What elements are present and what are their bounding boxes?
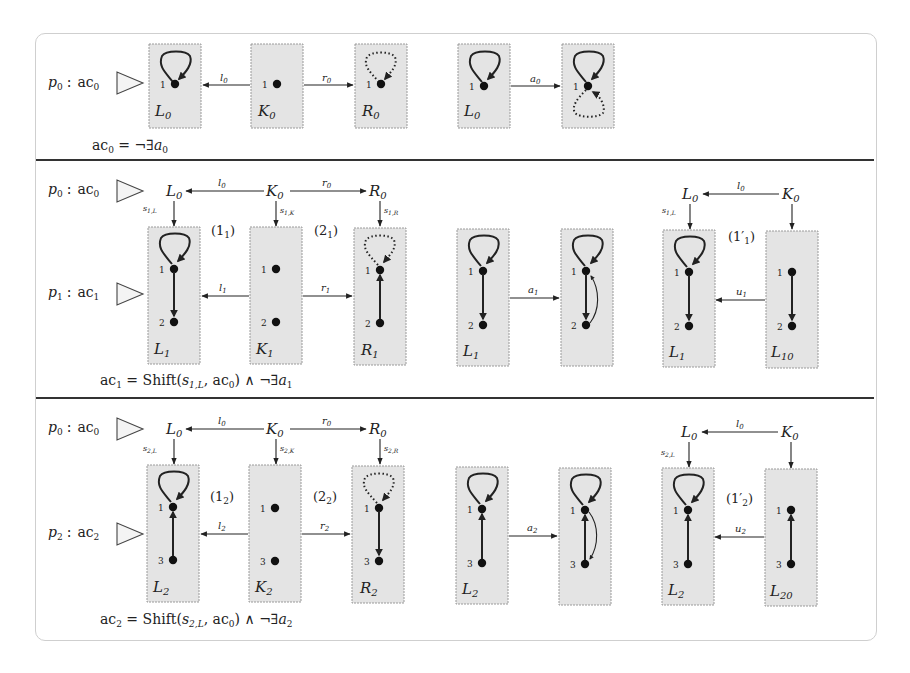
svg-text:s2,K: s2,K	[280, 444, 295, 454]
object-K0: K0	[265, 182, 284, 201]
svg-text:s1,R: s1,R	[384, 206, 399, 216]
svg-text:1: 1	[158, 503, 164, 513]
svg-text:3: 3	[260, 557, 266, 567]
object-R0: R0	[368, 182, 387, 201]
graph-K0: 1 K0	[251, 44, 303, 128]
graph-a1-target: 1 2	[561, 229, 613, 366]
square-2: (22)	[313, 489, 337, 506]
svg-text:1: 1	[673, 506, 679, 516]
svg-text:2: 2	[468, 321, 474, 331]
svg-text:1: 1	[571, 267, 577, 277]
svg-text:1: 1	[365, 266, 371, 276]
svg-text:3: 3	[673, 560, 679, 570]
svg-text:s1,K: s1,K	[280, 206, 295, 216]
triangle-icon	[117, 180, 143, 202]
svg-text:1: 1	[261, 265, 267, 275]
svg-text:s2,R: s2,R	[384, 444, 399, 454]
svg-text:1: 1	[366, 80, 372, 90]
diagram-canvas: p0:ac0 1 L0 1 K0 1 R0 l0 r0	[0, 0, 910, 673]
graph-R0: 1 R0	[355, 44, 407, 128]
graph-L2: 1 3 L2	[147, 465, 199, 602]
svg-text:2: 2	[777, 322, 783, 332]
graph-a2-target: 1 3	[559, 468, 611, 605]
svg-text:2: 2	[159, 318, 165, 328]
svg-text:s2,L: s2,L	[143, 444, 157, 454]
graph-L10: 1 2 L10	[766, 231, 818, 368]
morphism-label: r0	[322, 72, 332, 85]
graph-K2: 1 3 K2	[249, 465, 301, 602]
svg-text:1: 1	[776, 506, 782, 516]
svg-text:K0: K0	[265, 420, 284, 439]
row-2: p0:ac0 L0 K0 R0 l0 r0 s2,L s2,K s2,R (12…	[48, 415, 817, 629]
svg-text:1: 1	[777, 268, 783, 278]
graph-L1: 1 2 L1	[148, 227, 200, 364]
svg-text:s1,L: s1,L	[143, 204, 157, 214]
svg-text:1: 1	[674, 268, 680, 278]
base-rule-name: p0:ac0	[48, 419, 100, 437]
rule-name: p0:ac0	[48, 74, 100, 92]
svg-text:2: 2	[571, 321, 577, 331]
svg-text:K0: K0	[781, 185, 800, 204]
triangle-icon	[117, 72, 143, 94]
triangle-icon	[117, 523, 143, 545]
svg-text:2: 2	[261, 318, 267, 328]
svg-text:1: 1	[364, 504, 370, 514]
graph-L0-condition: 1 L0	[458, 44, 510, 128]
object-L0: L0	[165, 182, 183, 201]
condition-formula: ac1 = Shift(s1,L, ac0) ∧ ¬∃a1	[100, 372, 293, 390]
square-1-prime: (1′2)	[726, 491, 753, 508]
square-2: (21)	[314, 223, 338, 240]
svg-text:3: 3	[158, 556, 164, 566]
morphism-label: a0	[530, 73, 541, 86]
svg-text:l1: l1	[219, 282, 227, 295]
svg-text:1: 1	[262, 80, 268, 90]
svg-text:l0: l0	[218, 415, 226, 428]
svg-text:u2: u2	[735, 523, 746, 536]
svg-text:r2: r2	[320, 520, 330, 533]
svg-text:3: 3	[570, 560, 576, 570]
svg-text:r0: r0	[322, 415, 332, 428]
svg-text:1: 1	[160, 80, 166, 90]
svg-text:1: 1	[570, 506, 576, 516]
condition-formula: ac2 = Shift(s2,L, ac0) ∧ ¬∃a2	[100, 611, 293, 629]
svg-text:L0: L0	[681, 185, 699, 204]
svg-text:a2: a2	[527, 522, 538, 535]
graph-L1-condition: 1 2 L1	[457, 229, 509, 366]
svg-text:R0: R0	[368, 420, 387, 439]
graph-L1-pullback: 1 2 L1	[663, 230, 715, 367]
square-1-prime: (1′1)	[728, 229, 755, 246]
svg-text:3: 3	[776, 560, 782, 570]
condition-formula: ac0 = ¬∃a0	[92, 137, 168, 155]
graph-L2-pullback: 1 3 L2	[662, 468, 714, 605]
svg-text:L0: L0	[680, 423, 698, 442]
triangle-icon	[117, 418, 143, 440]
svg-text:1: 1	[573, 82, 579, 92]
triangle-icon	[117, 283, 143, 305]
graph-R2: 1 3 R2	[352, 466, 404, 603]
graph-L0: 1 L0	[149, 44, 201, 128]
svg-text:r1: r1	[321, 282, 330, 295]
square-1: (12)	[210, 489, 234, 506]
rule-name: p2:ac2	[48, 524, 99, 542]
svg-text:l2: l2	[218, 520, 226, 533]
svg-text:l0: l0	[736, 418, 744, 431]
svg-text:1: 1	[469, 82, 475, 92]
svg-text:s2,L: s2,L	[661, 448, 675, 458]
morphism-label: l0	[220, 72, 228, 85]
svg-text:1: 1	[159, 265, 165, 275]
svg-text:1: 1	[468, 267, 474, 277]
base-rule-name: p0:ac0	[48, 181, 100, 199]
row-1: p0:ac0 L0 K0 R0 l0 r0 s1,L s1,K s1,R (11…	[48, 177, 818, 390]
svg-text:u1: u1	[736, 286, 747, 299]
row-0: p0:ac0 1 L0 1 K0 1 R0 l0 r0	[48, 44, 614, 155]
svg-text:a1: a1	[528, 284, 538, 297]
svg-text:2: 2	[674, 322, 680, 332]
graph-L2-condition: 1 3 L2	[456, 467, 508, 604]
svg-text:3: 3	[364, 557, 370, 567]
svg-text:1: 1	[260, 504, 266, 514]
rule-name: p1:ac1	[48, 284, 99, 302]
graph-a0-target: 1	[562, 44, 614, 128]
svg-text:l0: l0	[218, 177, 226, 190]
svg-text:L0: L0	[165, 420, 183, 439]
svg-text:1: 1	[467, 505, 473, 515]
